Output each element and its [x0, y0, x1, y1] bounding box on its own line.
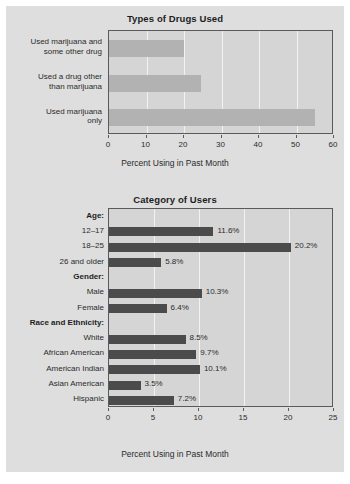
x-axis-tick: [183, 135, 184, 138]
bar: [109, 304, 167, 313]
y-axis-group-label: Age:: [4, 211, 104, 221]
bar: [109, 289, 202, 298]
x-axis-tick: [221, 135, 222, 138]
x-axis-tick-label: 10: [186, 413, 210, 422]
bar: [109, 40, 184, 57]
bar-value-label: 10.3%: [206, 287, 229, 296]
bar-value-label: 11.6%: [217, 226, 239, 235]
bar: [109, 350, 196, 359]
x-axis-tick: [288, 408, 289, 411]
y-axis-category-label: Used a drug other than marijuana: [10, 72, 102, 91]
y-axis-group-label: Gender:: [4, 272, 104, 282]
gridline: [199, 209, 200, 406]
x-axis-tick-label: 50: [284, 140, 308, 149]
x-axis-tick: [258, 135, 259, 138]
bar-value-label: 20.2%: [295, 241, 318, 250]
x-axis-tick: [108, 135, 109, 138]
x-axis-tick-label: 5: [141, 413, 165, 422]
bar: [109, 381, 141, 390]
x-axis-tick: [198, 408, 199, 411]
y-axis-category-label: American Indian: [4, 364, 104, 374]
gridline: [244, 209, 245, 406]
x-axis-tick-label: 10: [134, 140, 158, 149]
y-axis-category-label: Male: [4, 287, 104, 297]
bar: [109, 75, 201, 92]
y-axis-category-label: Asian American: [4, 379, 104, 389]
chart2-title: Category of Users: [6, 194, 344, 205]
x-axis-tick: [333, 408, 334, 411]
x-axis-tick: [146, 135, 147, 138]
bar: [109, 109, 315, 126]
bar: [109, 365, 200, 374]
bar: [109, 335, 186, 344]
bar: [109, 396, 174, 405]
chart1-title: Types of Drugs Used: [6, 13, 344, 24]
x-axis-tick-label: 20: [276, 413, 300, 422]
bar-value-label: 3.5%: [145, 379, 163, 388]
x-axis-tick: [108, 408, 109, 411]
y-axis-category-label: Female: [4, 303, 104, 313]
bar-value-label: 10.1%: [204, 364, 227, 373]
y-axis-category-label: 18–25: [4, 241, 104, 251]
x-axis-tick-label: 60: [321, 140, 345, 149]
chart1-x-axis-title: Percent Using in Past Month: [6, 158, 344, 168]
chart1-plot-area: [108, 30, 333, 134]
y-axis-category-label: 26 and older: [4, 257, 104, 267]
y-axis-category-label: Hispanic: [4, 394, 104, 404]
chart-types-of-drugs-used: Types of Drugs Used Percent Using in Pas…: [6, 6, 344, 186]
chart2-plot-area: [108, 208, 333, 407]
x-axis-tick-label: 40: [246, 140, 270, 149]
figure-panel: Types of Drugs Used Percent Using in Pas…: [6, 6, 344, 472]
bar-value-label: 9.7%: [200, 348, 218, 357]
bar: [109, 227, 213, 236]
x-axis-tick-label: 20: [171, 140, 195, 149]
y-axis-category-label: Used marijuana only: [10, 107, 102, 126]
x-axis-tick: [296, 135, 297, 138]
x-axis-tick: [153, 408, 154, 411]
x-axis-tick-label: 0: [96, 413, 120, 422]
y-axis-category-label: African American: [4, 348, 104, 358]
x-axis-tick-label: 25: [321, 413, 345, 422]
y-axis-group-label: Race and Ethnicity:: [4, 318, 104, 328]
bar-value-label: 6.4%: [171, 303, 189, 312]
bar-value-label: 7.2%: [178, 394, 196, 403]
bar: [109, 258, 161, 267]
bar-value-label: 5.8%: [165, 257, 183, 266]
gridline: [289, 209, 290, 406]
y-axis-category-label: White: [4, 333, 104, 343]
bar: [109, 243, 291, 252]
y-axis-category-label: Used marijuana and some other drug: [10, 37, 102, 56]
x-axis-tick: [243, 408, 244, 411]
x-axis-tick-label: 15: [231, 413, 255, 422]
x-axis-tick-label: 30: [209, 140, 233, 149]
x-axis-tick: [333, 135, 334, 138]
y-axis-category-label: 12–17: [4, 226, 104, 236]
x-axis-tick-label: 0: [96, 140, 120, 149]
chart-category-of-users: Category of Users Percent Using in Past …: [6, 186, 344, 472]
chart2-x-axis-title: Percent Using in Past Month: [6, 449, 344, 459]
bar-value-label: 8.5%: [190, 333, 208, 342]
